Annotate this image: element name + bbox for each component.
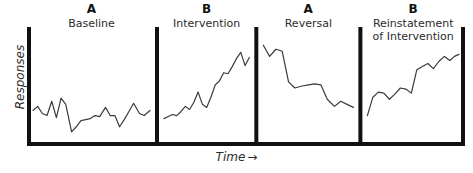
data-series-lines: [33, 45, 459, 132]
x-axis-label: Time→: [0, 150, 473, 164]
series-line-4: [367, 54, 459, 115]
phase-letter-1: A: [51, 3, 131, 16]
phase-name-reinstatement-line2: of Intervention: [373, 30, 454, 43]
series-line-1: [33, 98, 150, 132]
phase-letter-4: B: [373, 3, 453, 16]
phase-letter-3: A: [268, 3, 348, 16]
ab-reversal-design-chart: Responses A B A B Baseline Intervention …: [0, 0, 473, 173]
phase-letter-2: B: [167, 3, 247, 16]
series-line-3: [263, 45, 353, 107]
x-axis-label-text: Time: [216, 150, 246, 164]
phase-name-reversal: Reversal: [248, 17, 368, 30]
arrow-right-icon: →: [245, 150, 257, 164]
phase-name-baseline: Baseline: [31, 17, 151, 30]
phase-name-reinstatement: Reinstatement of Intervention: [357, 17, 469, 43]
axis-lines: [27, 27, 465, 144]
phase-divider-lines: [157, 27, 360, 142]
series-line-2: [164, 52, 249, 118]
phase-name-reinstatement-line1: Reinstatement: [373, 17, 454, 30]
